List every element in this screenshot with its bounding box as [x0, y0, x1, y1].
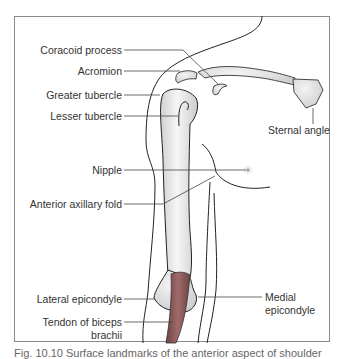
label-sternal-angle: Sternal angle [268, 124, 330, 136]
figure-caption: Fig. 10.10 Surface landmarks of the ante… [14, 347, 322, 359]
pectoral-curve [202, 144, 270, 188]
label-medial-epicondyle-line2: epicondyle [265, 304, 315, 316]
label-tendon-biceps-line1: Tendon of biceps [43, 316, 122, 328]
label-acromion: Acromion [78, 65, 122, 77]
coracoid-bone [213, 84, 227, 95]
label-anterior-axillary-fold: Anterior axillary fold [30, 198, 122, 210]
label-nipple: Nipple [92, 164, 122, 176]
clavicle [198, 67, 295, 86]
label-greater-tubercle: Greater tubercle [46, 89, 122, 101]
label-coracoid-process: Coracoid process [40, 44, 122, 56]
acromion-bone [176, 71, 197, 83]
label-lateral-epicondyle: Lateral epicondyle [37, 293, 122, 305]
label-medial-epicondyle-line1: Medial [265, 291, 296, 303]
medial-arm-contour [198, 182, 210, 343]
label-tendon-biceps-line2: brachii [91, 329, 122, 341]
label-lesser-tubercle: Lesser tubercle [50, 110, 122, 122]
manubrium [293, 79, 323, 108]
